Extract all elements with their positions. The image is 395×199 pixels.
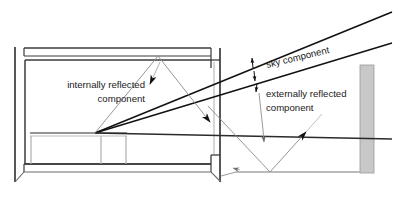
desk-work-plane [30, 133, 127, 164]
sky-component-extent-arrows [252, 58, 257, 92]
opposing-building [360, 65, 374, 173]
sky-component-label-group: sky component [265, 44, 331, 70]
room-interior-outline [25, 60, 211, 164]
work-plane-reference-line [95, 133, 392, 139]
internally-reflected-leader [150, 62, 160, 84]
sky-component-ray [95, 12, 392, 133]
sky-component-label: sky component [265, 44, 331, 70]
daylight-components-diagram: internally reflected component sky compo… [0, 0, 395, 199]
internally-reflected-label-line2: component [98, 93, 146, 104]
externally-reflected-label-line2: component [266, 102, 314, 113]
window-wall [211, 48, 220, 182]
externally-reflected-label-line1: externally reflected [266, 88, 347, 99]
floor-slab [15, 164, 221, 182]
externally-reflected-leader [259, 93, 264, 142]
exterior-ground [221, 172, 360, 176]
internally-reflected-label-line1: internally reflected [67, 79, 145, 90]
diagram-canvas: internally reflected component sky compo… [0, 0, 395, 199]
external-ground-reflection-ray [208, 106, 322, 172]
ceiling-slab [24, 48, 211, 60]
ground-callout-leader [233, 168, 240, 170]
